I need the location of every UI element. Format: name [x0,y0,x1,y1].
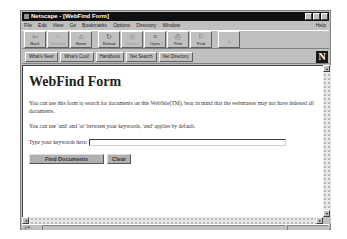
net-search-button[interactable]: Net Search [126,52,157,62]
net-directory-button[interactable]: Net Directory [159,52,193,62]
netscape-logo-icon: N [316,51,328,63]
menu-view[interactable]: View [53,21,64,29]
minimize-button[interactable] [305,13,312,20]
back-button[interactable]: ⇦ Back [24,31,46,48]
back-arrow-icon: ⇦ [32,33,38,41]
status-bar: ⚷✉ [22,224,329,230]
images-icon: ▣ [129,33,136,41]
system-menu-icon[interactable] [24,14,29,19]
forward-button[interactable]: ⇨ Forward [47,31,69,48]
reload-icon: ↻ [106,33,112,41]
home-button[interactable]: ⌂ Home [70,31,92,48]
close-button[interactable] [321,13,328,20]
form-buttons: Find Documents Clear [29,154,317,164]
browser-window: Netscape - [WebFind Form] File Edit View… [20,10,331,230]
title-bar[interactable]: Netscape - [WebFind Form] [22,12,329,21]
find-icon: ⚐ [198,33,204,41]
scroll-down-icon[interactable]: ▾ [323,210,330,217]
window-title: Netscape - [WebFind Form] [31,13,109,19]
print-icon: ⎙ [175,33,181,41]
menu-directory[interactable]: Directory [136,21,156,29]
menu-bookmarks[interactable]: Bookmarks [82,21,107,29]
directory-buttons-bar: What's New! What's Cool! Handbook Net Se… [22,50,329,64]
intro-paragraph: You can use this form to search for docu… [29,100,317,115]
menu-options[interactable]: Options [113,21,130,29]
scrollbar-corner [323,217,331,224]
menu-help[interactable]: Help [316,21,326,29]
stop-button[interactable]: ● [218,31,240,48]
menu-bar: File Edit View Go Bookmarks Options Dire… [22,21,329,29]
whats-new-button[interactable]: What's New! [25,52,58,62]
keyword-hint-paragraph: You can use 'and' and 'or' between your … [29,123,317,131]
images-button[interactable]: ▣ Images [121,31,143,48]
find-button[interactable]: ⚐ Find [190,31,212,48]
whats-cool-button[interactable]: What's Cool! [60,52,93,62]
navigation-toolbar: ⇦ Back ⇨ Forward ⌂ Home ↻ Reload ▣ Image… [22,30,329,49]
home-icon: ⌂ [79,33,83,41]
open-button[interactable]: ≡ Open [144,31,166,48]
scroll-left-icon[interactable]: ◂ [22,217,29,224]
keyword-row: Type your keywords here: [29,139,317,146]
forward-arrow-icon: ⇨ [55,33,61,41]
keyword-input[interactable] [89,139,286,146]
stop-icon: ● [227,38,231,46]
keyword-label: Type your keywords here: [29,139,87,145]
print-button[interactable]: ⎙ Print [167,31,189,48]
page-title: WebFind Form [29,74,317,90]
progress-field [287,225,328,230]
menu-window[interactable]: Window [162,21,180,29]
menu-edit[interactable]: Edit [38,21,47,29]
status-text [42,225,285,230]
find-documents-button[interactable]: Find Documents [29,154,104,164]
scroll-right-icon[interactable]: ▸ [316,217,323,224]
menu-go[interactable]: Go [69,21,76,29]
security-key-icon: ⚷✉ [24,225,30,230]
maximize-button[interactable] [313,13,320,20]
page-content: WebFind Form You can use this form to se… [22,65,323,217]
open-icon: ≡ [153,33,157,41]
vertical-scrollbar[interactable]: ▴ ▾ [323,65,331,217]
handbook-button[interactable]: Handbook [96,52,125,62]
clear-button[interactable]: Clear [107,154,131,164]
reload-button[interactable]: ↻ Reload [98,31,120,48]
horizontal-scrollbar[interactable]: ◂ ▸ [22,217,323,224]
menu-file[interactable]: File [24,21,32,29]
scroll-up-icon[interactable]: ▴ [323,65,330,72]
